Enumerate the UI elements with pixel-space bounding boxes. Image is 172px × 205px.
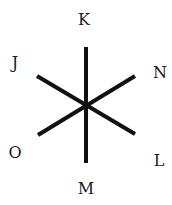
label-M: M bbox=[78, 179, 94, 198]
label-K: K bbox=[78, 10, 91, 29]
label-L: L bbox=[154, 151, 165, 170]
diagram-lines bbox=[37, 47, 135, 163]
star-diagram: KNLMOJ bbox=[0, 0, 172, 205]
diagram-canvas: KNLMOJ bbox=[0, 0, 172, 205]
label-N: N bbox=[153, 63, 167, 82]
label-O: O bbox=[8, 143, 21, 162]
label-J: J bbox=[10, 53, 18, 72]
